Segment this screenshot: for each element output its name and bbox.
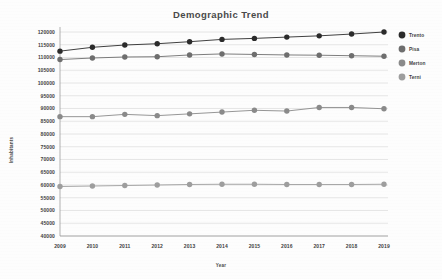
- circle-marker: [399, 74, 406, 81]
- y-tick-label: 45000: [41, 220, 56, 226]
- data-point: [90, 114, 95, 119]
- data-point: [252, 108, 257, 113]
- y-tick-label: 60000: [41, 182, 56, 188]
- y-tick-label: 40000: [41, 233, 56, 239]
- data-point: [122, 112, 127, 117]
- data-point: [90, 45, 95, 50]
- y-tick-label: 80000: [41, 131, 56, 137]
- data-point: [317, 105, 322, 110]
- data-point: [317, 33, 322, 38]
- legend-item-terni[interactable]: Terni: [399, 74, 421, 81]
- x-axis-tick-labels: 2009201020112012201320142015201620172018…: [54, 243, 390, 249]
- data-series-group: [57, 29, 386, 189]
- data-point: [122, 54, 127, 59]
- y-tick-label: 50000: [41, 207, 56, 213]
- data-point: [284, 182, 289, 187]
- y-tick-label: 110000: [38, 54, 55, 60]
- data-point: [57, 114, 62, 119]
- data-point: [219, 109, 224, 114]
- x-tick-label: 2017: [313, 243, 325, 249]
- data-point: [381, 29, 386, 34]
- x-tick-label: 2011: [119, 243, 130, 249]
- y-axis-title: Inhabitants: [9, 136, 14, 163]
- plot-area: 4000045000500005500060000650007000075000…: [0, 0, 442, 279]
- data-point: [284, 52, 289, 57]
- data-point: [349, 105, 354, 110]
- data-point: [122, 183, 127, 188]
- data-point: [349, 182, 354, 187]
- data-point: [155, 54, 160, 59]
- y-tick-label: 120000: [38, 29, 55, 35]
- axis-lines: [60, 27, 388, 236]
- y-tick-label: 75000: [41, 144, 56, 150]
- legend-item-label: Trento: [409, 33, 424, 38]
- x-tick-label: 2019: [378, 243, 390, 249]
- legend-item-pisa[interactable]: Pisa: [399, 46, 420, 53]
- legend: TrentoPisaMertonTerni: [399, 32, 426, 81]
- data-point: [122, 42, 127, 47]
- data-point: [317, 182, 322, 187]
- data-point: [187, 39, 192, 44]
- x-tick-label: 2012: [151, 243, 163, 249]
- data-point: [252, 52, 257, 57]
- data-point: [252, 182, 257, 187]
- legend-item-label: Pisa: [409, 47, 420, 52]
- data-point: [284, 108, 289, 113]
- data-point: [349, 53, 354, 58]
- data-point: [252, 36, 257, 41]
- y-tick-label: 55000: [41, 195, 56, 201]
- legend-item-trento[interactable]: Trento: [399, 32, 425, 39]
- circle-marker: [399, 32, 406, 39]
- data-point: [349, 31, 354, 36]
- legend-item-label: Terni: [409, 75, 421, 80]
- data-point: [90, 183, 95, 188]
- series-pisa: [57, 51, 386, 62]
- chart-canvas: Demographic Trend 4000045000500005500060…: [0, 0, 442, 279]
- y-tick-label: 95000: [41, 93, 56, 99]
- x-tick-label: 2013: [184, 243, 196, 249]
- legend-item-label: Merton: [409, 61, 426, 66]
- data-point: [317, 53, 322, 58]
- data-point: [90, 55, 95, 60]
- x-axis-title: Year: [216, 263, 227, 268]
- data-point: [381, 182, 386, 187]
- data-point: [219, 37, 224, 42]
- x-tick-label: 2009: [54, 243, 66, 249]
- data-point: [57, 184, 62, 189]
- data-point: [219, 51, 224, 56]
- y-tick-label: 100000: [38, 80, 55, 86]
- data-point: [187, 182, 192, 187]
- series-terni: [57, 182, 386, 190]
- data-point: [57, 57, 62, 62]
- gridlines: [60, 32, 388, 236]
- data-point: [155, 113, 160, 118]
- y-tick-label: 115000: [38, 42, 55, 48]
- circle-marker: [399, 46, 406, 53]
- data-point: [155, 182, 160, 187]
- y-axis-tick-labels: 4000045000500005500060000650007000075000…: [38, 29, 55, 239]
- data-point: [187, 52, 192, 57]
- series-merton: [57, 105, 386, 120]
- data-point: [284, 34, 289, 39]
- x-tick-label: 2018: [346, 243, 358, 249]
- circle-marker: [399, 60, 406, 67]
- data-point: [381, 54, 386, 59]
- legend-item-merton[interactable]: Merton: [399, 60, 426, 67]
- data-point: [381, 106, 386, 111]
- x-tick-label: 2014: [216, 243, 228, 249]
- y-tick-label: 90000: [41, 105, 56, 111]
- y-tick-label: 70000: [41, 156, 56, 162]
- data-point: [155, 41, 160, 46]
- y-tick-label: 65000: [41, 169, 56, 175]
- data-point: [219, 182, 224, 187]
- x-tick-label: 2010: [87, 243, 99, 249]
- x-tick-label: 2016: [281, 243, 293, 249]
- series-trento: [57, 29, 386, 54]
- data-point: [187, 111, 192, 116]
- y-tick-label: 105000: [38, 67, 55, 73]
- y-tick-label: 85000: [41, 118, 56, 124]
- data-point: [57, 48, 62, 53]
- x-tick-label: 2015: [249, 243, 261, 249]
